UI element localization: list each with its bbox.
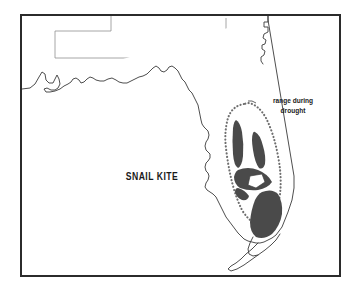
florida-map-svg [0,0,363,296]
figure-container: SNAIL KITE range during drought [0,0,363,296]
